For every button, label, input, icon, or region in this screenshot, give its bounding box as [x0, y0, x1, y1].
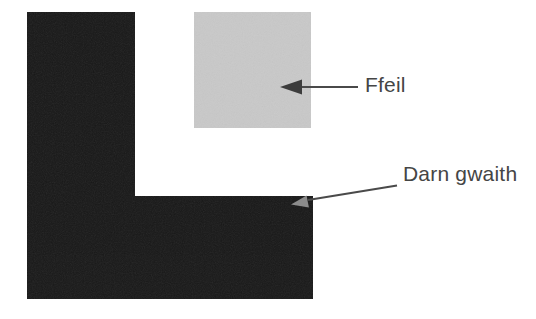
diagram-graphics: [0, 0, 536, 319]
file-label: Ffeil: [365, 74, 406, 95]
scan-noise-texture: [0, 0, 536, 319]
workpiece-label: Darn gwaith: [403, 163, 517, 184]
workpiece-leader-line: [308, 186, 397, 201]
diagram-canvas: Ffeil Darn gwaith: [0, 0, 536, 319]
